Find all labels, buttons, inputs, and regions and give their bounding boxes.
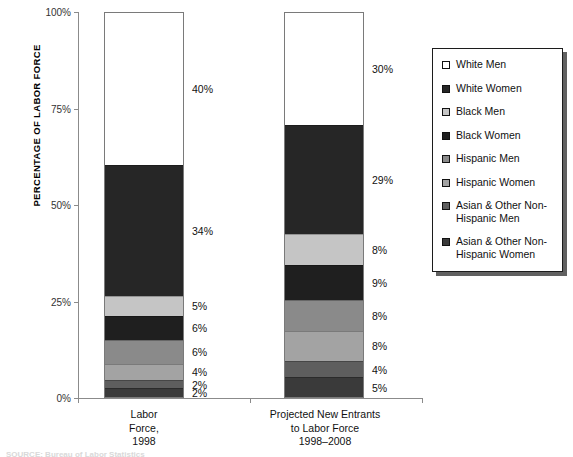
category-label-line: to Labor Force [228,422,422,436]
x-axis-label-labor-force-1998: LaborForce,1998 [64,408,224,449]
y-tick-label: 50% [51,200,71,211]
stacked-bar-projected-new-entrants[interactable]: 30%29%8%9%8%8%4%5% [284,12,364,398]
segment-value-label: 4% [372,364,387,376]
legend-item[interactable]: Black Women [442,129,554,142]
category-label-line: 1998 [64,435,224,449]
legend-item-label: Black Women [456,129,521,142]
bar-segment[interactable]: 5% [285,377,363,397]
y-tick-mark [74,12,79,13]
bar-segment[interactable]: 4% [105,364,183,380]
legend-item-label: Hispanic Men [456,152,520,165]
legend-item-label: Asian & Other Non-Hispanic Women [456,235,554,260]
legend-item[interactable]: Black Men [442,105,554,118]
y-tick-label: 25% [51,296,71,307]
bar-segment[interactable]: 8% [285,331,363,362]
plot-area: 100%75%50%25%0% 40%34%5%6%6%4%2%2% 30%29… [78,12,423,399]
legend-swatch-icon [442,61,450,69]
bar-segment[interactable]: 2% [105,380,183,389]
x-tick-left [78,398,79,403]
bar-segment[interactable]: 6% [105,340,183,364]
segment-value-label: 5% [192,300,207,312]
legend-swatch-icon [442,179,450,187]
legend-item-label: Asian & Other Non-Hispanic Men [456,199,554,224]
segment-value-label: 8% [372,244,387,256]
y-tick-75: 75% [78,109,83,110]
legend-item[interactable]: White Men [442,58,554,71]
legend-swatch-icon [442,155,450,163]
bar-segment[interactable]: 8% [285,300,363,331]
bar-segment[interactable]: 29% [285,125,363,234]
legend-item-label: White Women [456,82,522,95]
category-label-line: Labor [64,408,224,422]
category-label-line: 1998–2008 [228,435,422,449]
bar-segment[interactable]: 9% [285,265,363,300]
y-tick-mark [74,302,79,303]
legend-item-label: White Men [456,58,506,71]
bar-segment[interactable]: 40% [105,13,183,165]
legend: White MenWhite WomenBlack MenBlack Women… [432,48,563,272]
bar-segment[interactable]: 30% [285,13,363,125]
y-tick-mark [74,109,79,110]
segment-value-label: 34% [192,225,213,237]
legend-item[interactable]: Asian & Other Non-Hispanic Men [442,199,554,224]
segment-value-label: 4% [192,366,207,378]
segment-value-label: 8% [372,310,387,322]
y-tick-label: 0% [57,393,71,404]
y-tick-label: 100% [45,7,71,18]
stacked-bar-labor-force-1998[interactable]: 40%34%5%6%6%4%2%2% [104,12,184,398]
legend-swatch-icon [442,202,450,210]
bar-segment[interactable]: 4% [285,361,363,377]
segment-value-label: 6% [192,346,207,358]
source-note: SOURCE: Bureau of Labor Statistics [6,450,145,457]
category-label-line: Force, [64,422,224,436]
legend-swatch-icon [442,132,450,140]
y-tick-50: 50% [78,205,83,206]
bar-segment[interactable]: 34% [105,165,183,295]
legend-item-label: Hispanic Women [456,176,535,189]
y-tick-25: 25% [78,302,83,303]
bar-segment[interactable]: 2% [105,388,183,397]
y-tick-mark [74,205,79,206]
legend-item[interactable]: Hispanic Women [442,176,554,189]
legend-item[interactable]: Hispanic Men [442,152,554,165]
legend-swatch-icon [442,108,450,116]
y-axis-title: PERCENTAGE OF LABOR FORCE [31,6,42,246]
segment-value-label: 6% [192,322,207,334]
y-tick-100: 100% [78,12,83,13]
legend-item[interactable]: White Women [442,82,554,95]
segment-value-label: 40% [192,83,213,95]
segment-value-label: 2% [192,387,207,399]
segment-value-label: 9% [372,277,387,289]
legend-item[interactable]: Asian & Other Non-Hispanic Women [442,235,554,260]
bar-segment[interactable]: 5% [105,296,183,316]
x-tick-right [422,398,423,403]
x-tick-middle [250,398,251,403]
bar-segment[interactable]: 6% [105,316,183,340]
legend-item-label: Black Men [456,105,505,118]
bar-segment[interactable]: 8% [285,234,363,265]
legend-swatch-icon [442,85,450,93]
y-tick-label: 75% [51,103,71,114]
legend-swatch-icon [442,238,450,246]
category-label-line: Projected New Entrants [228,408,422,422]
x-axis-label-projected-new-entrants: Projected New Entrantsto Labor Force1998… [228,408,422,449]
segment-value-label: 8% [372,340,387,352]
segment-value-label: 5% [372,382,387,394]
segment-value-label: 30% [372,63,393,75]
segment-value-label: 29% [372,174,393,186]
